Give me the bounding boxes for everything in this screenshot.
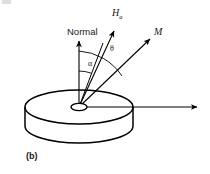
magnetization-label: M	[154, 27, 162, 37]
origin-marker	[71, 103, 87, 110]
normal-label: Normal	[67, 27, 98, 37]
angle-alpha-label: α	[88, 60, 92, 68]
applied-field-label: Ha	[112, 8, 122, 21]
origin-ellipse	[71, 103, 87, 110]
figure-panel-b: Normal Ha M θ α (b)	[0, 0, 210, 174]
angle-theta-label: θ	[110, 45, 114, 53]
panel-label: (b)	[26, 152, 38, 161]
arc-alpha	[79, 71, 91, 73]
applied-field-subscript: a	[119, 13, 122, 20]
disk-vector-diagram	[0, 0, 210, 174]
